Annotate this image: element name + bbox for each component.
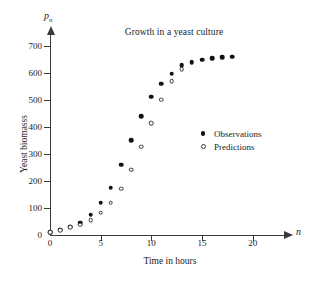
data-point-observations bbox=[210, 56, 215, 61]
data-point-observations bbox=[139, 114, 144, 119]
data-point-observations bbox=[119, 163, 124, 168]
data-point-observations bbox=[129, 138, 134, 143]
data-point-predictions bbox=[78, 222, 83, 227]
data-point-predictions bbox=[139, 144, 144, 149]
data-point-predictions bbox=[88, 218, 93, 223]
data-point-predictions bbox=[159, 97, 164, 102]
data-point-observations bbox=[109, 185, 114, 190]
data-point-predictions bbox=[129, 167, 134, 172]
data-point-predictions bbox=[149, 121, 154, 126]
data-points-layer bbox=[0, 0, 320, 281]
data-point-predictions bbox=[179, 67, 184, 72]
data-point-observations bbox=[149, 94, 154, 99]
data-point-observations bbox=[159, 82, 164, 87]
legend-item: Observations bbox=[196, 127, 262, 140]
filled-circle-icon bbox=[196, 131, 210, 135]
data-point-observations bbox=[230, 55, 235, 60]
data-point-observations bbox=[190, 60, 195, 65]
data-point-predictions bbox=[98, 211, 103, 216]
data-point-observations bbox=[200, 57, 205, 62]
data-point-predictions bbox=[169, 79, 174, 84]
data-point-observations bbox=[169, 72, 174, 77]
legend-item: Predictions bbox=[196, 140, 262, 153]
yeast-growth-chart: Growth in a yeast culture pn n 010020030… bbox=[0, 0, 320, 281]
legend-label: Observations bbox=[214, 129, 262, 139]
data-point-predictions bbox=[68, 225, 73, 230]
data-point-observations bbox=[220, 55, 225, 60]
data-point-predictions bbox=[48, 230, 53, 235]
data-point-predictions bbox=[119, 186, 124, 191]
open-circle-icon bbox=[196, 144, 210, 149]
data-point-observations bbox=[98, 200, 103, 205]
data-point-predictions bbox=[58, 228, 63, 233]
data-point-predictions bbox=[109, 200, 114, 205]
chart-legend: ObservationsPredictions bbox=[196, 127, 262, 153]
legend-label: Predictions bbox=[214, 142, 255, 152]
data-point-observations bbox=[88, 212, 93, 217]
